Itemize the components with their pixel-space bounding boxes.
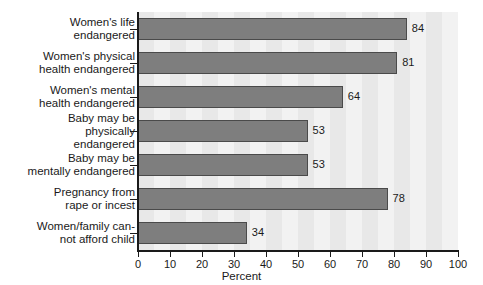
plot-area: [138, 12, 458, 250]
category-label: Women's life endangered: [0, 16, 135, 42]
x-axis-tick: [298, 252, 299, 257]
bar-row: [138, 188, 458, 209]
bar: [138, 18, 407, 39]
x-axis-tick: [394, 252, 395, 257]
value-label: 78: [393, 192, 405, 205]
x-axis-tick: [266, 252, 267, 257]
value-label: 34: [252, 226, 264, 239]
bar: [138, 52, 397, 73]
category-label: Women's physical health endangered: [0, 50, 135, 76]
bar: [138, 120, 308, 141]
x-axis-tick: [426, 252, 427, 257]
x-axis-tick: [330, 252, 331, 257]
bar-row: [138, 120, 458, 141]
bar-chart: Women's life endangeredWomen's physical …: [0, 0, 483, 285]
value-label: 53: [313, 124, 325, 137]
x-axis-tick: [202, 252, 203, 257]
category-label: Baby may be mentally endangered: [0, 152, 135, 178]
bar-row: [138, 154, 458, 175]
bar: [138, 154, 308, 175]
bar: [138, 86, 343, 107]
bar: [138, 222, 247, 243]
value-label: 81: [402, 56, 414, 69]
bar-row: [138, 18, 458, 39]
category-label: Women's mental health endangered: [0, 84, 135, 110]
y-axis-line: [137, 12, 139, 252]
value-label: 64: [348, 90, 360, 103]
x-axis-tick: [458, 252, 459, 257]
bar-row: [138, 86, 458, 107]
category-label: Women/family can- not afford child: [0, 220, 135, 246]
bar: [138, 188, 388, 209]
category-label: Baby may be physically endangered: [0, 112, 135, 151]
x-axis-title: Percent: [0, 270, 483, 282]
x-axis-tick: [138, 252, 139, 257]
value-label: 53: [313, 158, 325, 171]
bar-row: [138, 222, 458, 243]
x-axis-tick: [170, 252, 171, 257]
x-axis-tick: [234, 252, 235, 257]
x-axis-tick: [362, 252, 363, 257]
category-label: Pregnancy from rape or incest: [0, 186, 135, 212]
value-label: 84: [412, 22, 424, 35]
